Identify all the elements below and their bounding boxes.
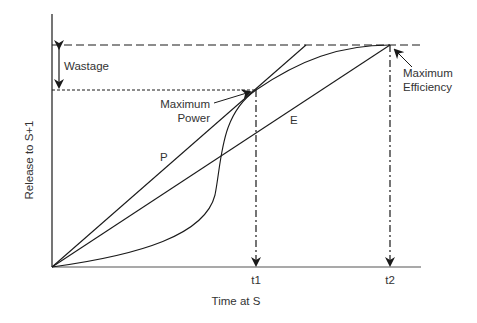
- x-axis-label: Time at S: [212, 295, 261, 307]
- series-p-label: P: [160, 151, 168, 163]
- x-tick-t2: t2: [385, 274, 395, 286]
- wastage-label: Wastage: [64, 60, 109, 72]
- diagram: Wastage Maximum Power Maximum Efficiency…: [0, 0, 477, 323]
- series-e-label: E: [290, 114, 298, 126]
- max-power-label-line2: Power: [177, 112, 210, 124]
- x-tick-t1: t1: [251, 274, 261, 286]
- y-axis-label: Release to S+1: [23, 121, 35, 200]
- max-efficiency-label-line1: Maximum: [403, 67, 453, 79]
- max-power-label-line1: Maximum: [160, 98, 210, 110]
- max-efficiency-arrow: [395, 50, 412, 67]
- max-efficiency-label-line2: Efficiency: [403, 81, 452, 93]
- max-power-arrow: [214, 92, 250, 103]
